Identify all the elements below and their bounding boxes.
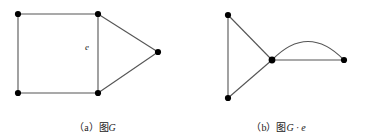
edge-label-e: e <box>85 43 89 52</box>
vertex-bottom-left <box>225 95 231 101</box>
vertex-bottom-left <box>15 90 21 96</box>
caption-a: （a）图G <box>0 119 190 134</box>
vertex-right-apex <box>155 49 161 55</box>
graph-g-drawing <box>0 0 190 112</box>
figure-panel-b: （b）图G · e <box>190 0 367 140</box>
caption-a-index: （a） <box>74 122 98 133</box>
vertex-top-right <box>95 11 101 17</box>
vertex-top-left <box>15 11 21 17</box>
caption-b-index: （b） <box>251 122 276 133</box>
edge-center-to-right-arc <box>272 42 344 61</box>
figure-panel-a: e （a）图G <box>0 0 190 140</box>
vertex-center-contracted <box>269 57 276 64</box>
edge-top-right-to-right-apex <box>98 14 158 52</box>
caption-b: （b）图G · e <box>190 119 367 134</box>
edge-bottom-right-to-right-apex <box>98 52 158 93</box>
caption-a-body: 图 <box>99 122 109 133</box>
graph-g-contract-e-drawing <box>190 0 367 112</box>
caption-b-body: 图 <box>276 122 286 133</box>
figure-container: e （a）图G （b）图G · e <box>0 0 367 140</box>
vertex-bottom-right <box>95 90 101 96</box>
caption-a-variable: G <box>109 122 116 133</box>
edge-bottom-left-to-center <box>228 60 272 98</box>
caption-b-variable: G · e <box>286 122 305 133</box>
vertex-right <box>341 57 347 63</box>
vertex-top <box>225 12 231 18</box>
edge-top-to-center <box>228 15 272 60</box>
